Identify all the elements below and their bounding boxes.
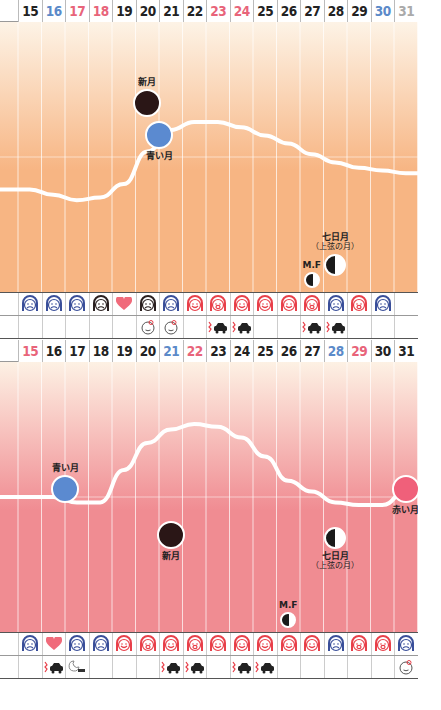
smile-red-face-icon	[112, 633, 136, 655]
empty-cell	[136, 656, 160, 678]
smile-red-face-icon	[277, 633, 301, 655]
empty-cell	[112, 316, 136, 338]
day-label: 29	[347, 340, 371, 362]
moon-full-icon	[51, 475, 79, 503]
cry-red-face-icon	[300, 293, 324, 315]
day-label: 24	[230, 340, 254, 362]
baby-icon	[159, 316, 183, 338]
cry-red-face-icon	[136, 633, 160, 655]
empty-cell	[42, 316, 66, 338]
smile-red-face-icon	[183, 293, 207, 315]
day-label: 22	[183, 340, 207, 362]
smile-red-face-icon	[206, 633, 230, 655]
day-header: 1516171819202122232425262728293031	[0, 340, 418, 362]
day-label: 30	[371, 340, 395, 362]
empty-cell	[18, 656, 42, 678]
heart-face-icon	[112, 293, 136, 315]
day-label: 16	[42, 340, 66, 362]
crash-icon	[300, 316, 324, 338]
empty-cell	[277, 316, 301, 338]
day-label: 22	[183, 0, 207, 22]
angry-dark-face-icon	[136, 293, 160, 315]
day-label: 21	[159, 0, 183, 22]
moon-label: 新月	[138, 77, 156, 87]
smile-red-face-icon	[230, 633, 254, 655]
empty-cell	[112, 656, 136, 678]
sad-blue-face-icon	[18, 293, 42, 315]
moon-full-icon	[392, 475, 418, 503]
moon-label: 七日月（上弦の月）	[311, 232, 359, 252]
day-label: 17	[65, 0, 89, 22]
smile-red-face-icon	[300, 633, 324, 655]
empty-cell	[89, 316, 113, 338]
empty-cell	[324, 656, 348, 678]
cry-red-face-icon	[183, 633, 207, 655]
crash-icon	[206, 316, 230, 338]
empty-cell	[277, 656, 301, 678]
heart-face-icon	[42, 633, 66, 655]
sad-blue-face-icon	[371, 293, 395, 315]
empty-cell	[18, 316, 42, 338]
day-label: 31	[394, 0, 418, 22]
event-row	[0, 656, 418, 678]
crash-icon	[230, 316, 254, 338]
day-label: 28	[324, 340, 348, 362]
day-label: 27	[300, 0, 324, 22]
sad-blue-face-icon	[394, 633, 418, 655]
empty-cell	[253, 316, 277, 338]
cry-red-face-icon	[371, 633, 395, 655]
moon-chart-area: 青い月新月七日月（上弦の月）赤い月M.F	[0, 362, 418, 632]
sad-blue-face-icon	[324, 293, 348, 315]
cry-red-face-icon	[347, 633, 371, 655]
moon-label: 七日月（上弦の月）	[311, 551, 359, 571]
moon-crescent-icon	[304, 272, 320, 288]
wink-blue-face-icon	[42, 293, 66, 315]
day-label: 29	[347, 0, 371, 22]
empty-cell	[300, 656, 324, 678]
day-header: 1516171819202122232425262728293031	[0, 0, 418, 22]
moon-label: 新月	[162, 551, 180, 561]
day-label: 31	[394, 340, 418, 362]
empty-cell	[347, 656, 371, 678]
crash-icon	[183, 656, 207, 678]
empty-cell	[206, 656, 230, 678]
day-label: 23	[206, 0, 230, 22]
sad-blue-face-icon	[324, 633, 348, 655]
day-label: 18	[89, 0, 113, 22]
empty-cell	[394, 293, 418, 315]
day-label: 27	[300, 340, 324, 362]
moon-sleep-icon	[65, 656, 89, 678]
angry-blue-face-icon	[65, 293, 89, 315]
smile-red-face-icon	[159, 633, 183, 655]
moon-new-icon	[157, 521, 185, 549]
event-row	[0, 316, 418, 338]
smile-red-face-icon	[230, 293, 254, 315]
day-label: 20	[136, 0, 160, 22]
empty-cell	[347, 316, 371, 338]
day-label: 15	[18, 340, 42, 362]
day-label: 19	[112, 0, 136, 22]
smile-red-face-icon	[253, 293, 277, 315]
crash-icon	[324, 316, 348, 338]
mood-row	[0, 633, 418, 655]
day-label: 19	[112, 340, 136, 362]
day-label: 16	[42, 0, 66, 22]
day-label: 28	[324, 0, 348, 22]
empty-cell	[65, 316, 89, 338]
moon-chart-area: 新月青い月七日月（上弦の月）M.F	[0, 22, 418, 292]
baby-icon	[394, 656, 418, 678]
day-label: 25	[253, 340, 277, 362]
day-label: 24	[230, 0, 254, 22]
empty-cell	[89, 656, 113, 678]
empty-cell	[371, 656, 395, 678]
baby-icon	[136, 316, 160, 338]
moon-label: M.F	[279, 600, 298, 610]
day-label: 18	[89, 340, 113, 362]
sad-blue-face-icon	[159, 293, 183, 315]
crash-icon	[253, 656, 277, 678]
chart-panel-2: 1516171819202122232425262728293031青い月新月七…	[0, 340, 441, 680]
day-label: 25	[253, 0, 277, 22]
sad-blue-face-icon	[89, 633, 113, 655]
cry-red-face-icon	[347, 293, 371, 315]
empty-cell	[394, 316, 418, 338]
